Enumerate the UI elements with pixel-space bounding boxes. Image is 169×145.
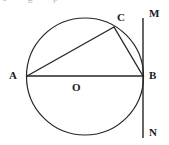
point-label-N: N xyxy=(149,127,157,138)
geometry-figure: o g p A B C O M N xyxy=(0,0,169,145)
segment-CB-chord xyxy=(114,27,143,76)
point-label-B: B xyxy=(149,70,156,81)
point-label-O-center: O xyxy=(72,82,81,93)
segment-AC-chord xyxy=(27,27,114,76)
geometry-canvas xyxy=(0,0,169,145)
point-label-C: C xyxy=(117,12,125,23)
point-label-A: A xyxy=(9,70,17,81)
point-label-M: M xyxy=(149,8,159,19)
